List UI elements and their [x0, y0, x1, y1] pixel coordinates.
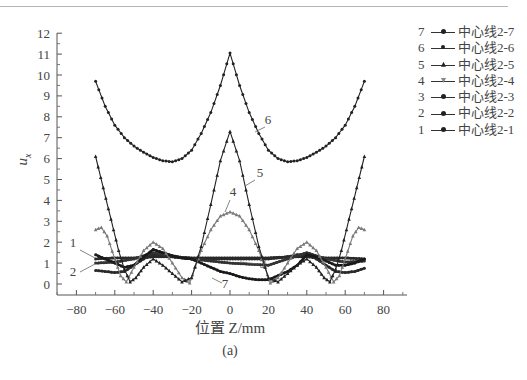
legend-item: 7中心线2-7: [418, 24, 514, 40]
curve-label-7: 7: [212, 276, 229, 291]
x-tick-label: −80: [66, 302, 86, 317]
x-tick-label: 80: [377, 302, 390, 317]
svg-text:3: 3: [260, 256, 267, 271]
legend-marker-icon: [430, 92, 456, 102]
curve-label-6: 6: [255, 112, 272, 132]
axes: 0123456789101112−80−60−40−20020406080: [37, 26, 407, 317]
y-tick-label: 8: [44, 109, 51, 124]
legend-marker-icon: [430, 43, 456, 53]
legend-item: 6中心线2-6: [418, 40, 514, 56]
y-tick-label: 5: [44, 172, 51, 187]
x-tick-label: 40: [300, 302, 313, 317]
x-tick-label: −20: [181, 302, 201, 317]
svg-text:4: 4: [230, 184, 237, 199]
legend-marker-icon: [430, 60, 456, 70]
svg-text:6: 6: [265, 112, 272, 127]
legend-item: 3中心线2-3: [418, 89, 514, 105]
figure-caption: (a): [0, 343, 460, 359]
curve-label-5: 5: [245, 165, 263, 186]
legend-marker-icon: [430, 125, 456, 135]
y-tick-label: 0: [44, 277, 51, 292]
x-tick-label: −60: [105, 302, 125, 317]
svg-text:2: 2: [70, 264, 77, 279]
legend: 7中心线2-7 6中心线2-6 5中心线2-5 4中心线2-4 3中心线2-3 …: [418, 24, 514, 138]
y-tick-label: 11: [37, 47, 50, 62]
y-tick-label: 3: [44, 214, 51, 229]
curve-label-4: 4: [225, 184, 237, 212]
x-tick-label: 0: [227, 302, 234, 317]
svg-text:7: 7: [222, 276, 229, 291]
curve-label-1: 1: [70, 235, 95, 258]
y-axis-label: ux: [14, 154, 33, 166]
y-tick-label: 12: [37, 26, 50, 41]
curve-label-2: 2: [70, 264, 95, 279]
legend-item: 2中心线2-2: [418, 105, 514, 121]
series-6: [94, 52, 366, 164]
y-tick-label: 2: [44, 235, 51, 250]
x-axis-label: 位置 Z/mm: [0, 316, 460, 337]
legend-marker-icon: [430, 27, 456, 37]
y-tick-label: 6: [44, 151, 51, 166]
x-tick-label: −40: [143, 302, 163, 317]
legend-marker-icon: [430, 109, 456, 119]
y-tick-label: 10: [37, 68, 50, 83]
svg-text:1: 1: [70, 235, 77, 250]
svg-text:5: 5: [257, 165, 264, 180]
y-tick-label: 1: [44, 256, 51, 271]
legend-item: 1中心线2-1: [418, 122, 514, 138]
y-tick-label: 4: [44, 193, 51, 208]
y-tick-label: 9: [44, 88, 51, 103]
x-tick-label: 20: [262, 302, 275, 317]
y-tick-label: 7: [44, 130, 51, 145]
legend-marker-icon: [430, 76, 456, 86]
legend-item: 5中心线2-5: [418, 57, 514, 73]
x-tick-label: 60: [339, 302, 352, 317]
legend-item: 4中心线2-4: [418, 73, 514, 89]
